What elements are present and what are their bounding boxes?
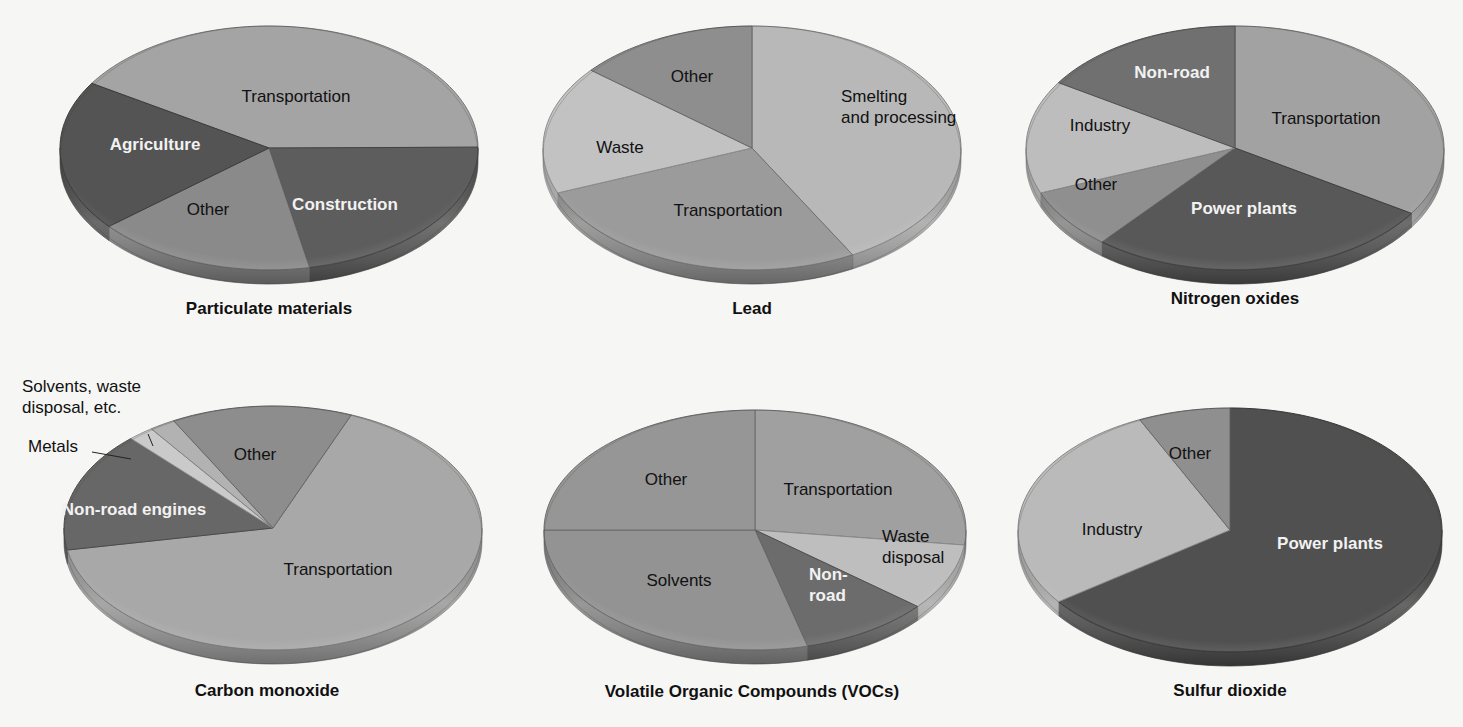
pie-chart-particulate-materials: TransportationConstructionOtherAgricultu… (60, 26, 478, 318)
chart-title: Nitrogen oxides (1171, 289, 1299, 308)
slice-label-agriculture: Agriculture (110, 135, 201, 154)
slice-label-other: Other (671, 67, 714, 86)
slice-label-transportation: Transportation (674, 201, 783, 220)
slice-label-power-plants: Power plants (1191, 199, 1297, 218)
slice-label-non-road-engines: Non-road engines (62, 500, 207, 519)
callout-metals: Metals (28, 437, 78, 456)
chart-title: Carbon monoxide (195, 681, 340, 700)
chart-title: Volatile Organic Compounds (VOCs) (605, 682, 899, 701)
slice-label-other: Other (1169, 444, 1212, 463)
pie-chart-volatile-organic-compounds-vocs: TransportationWastedisposalNon-roadSolve… (544, 410, 966, 701)
chart-title: Sulfur dioxide (1173, 681, 1286, 700)
slice-label-transportation: Transportation (784, 480, 893, 499)
pie-chart-carbon-monoxide: TransportationNon-road enginesOtherSolve… (22, 377, 482, 700)
emissions-pie-charts: TransportationConstructionOtherAgricultu… (0, 0, 1463, 727)
slice-label-transportation: Transportation (1272, 109, 1381, 128)
chart-title: Lead (732, 299, 772, 318)
pie-chart-nitrogen-oxides: TransportationPower plantsOtherIndustryN… (1026, 26, 1444, 308)
chart-title: Particulate materials (186, 299, 352, 318)
slice-label-solvents: Solvents (646, 571, 711, 590)
slice-label-transportation: Transportation (284, 560, 393, 579)
callout-solvents-waste-disposal-etc: Solvents, wastedisposal, etc. (22, 377, 141, 417)
slice-label-transportation: Transportation (242, 87, 351, 106)
slice-label-industry: Industry (1070, 116, 1131, 135)
slice-label-waste: Waste (596, 138, 644, 157)
slice-label-other: Other (187, 200, 230, 219)
slice-label-other: Other (1075, 175, 1118, 194)
pie-chart-sulfur-dioxide: Power plantsIndustryOtherSulfur dioxide (1018, 408, 1442, 700)
slice-label-construction: Construction (292, 195, 398, 214)
slice-label-industry: Industry (1082, 520, 1143, 539)
slice-label-other: Other (645, 470, 688, 489)
slice-label-other: Other (234, 445, 277, 464)
pie-chart-lead: Smeltingand processingTransportationWast… (543, 26, 961, 318)
slice-label-power-plants: Power plants (1277, 534, 1383, 553)
slice-label-non-road: Non-road (1134, 63, 1210, 82)
